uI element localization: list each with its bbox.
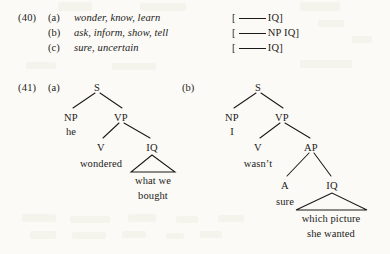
tree-b-node-v: V [254, 142, 262, 153]
scan-artifact [58, 2, 92, 11]
scan-artifact [112, 63, 156, 70]
tree-b-leaf-np-word: I [230, 126, 234, 137]
scan-artifact [70, 216, 110, 223]
blank-slot [239, 18, 266, 19]
scan-artifact [300, 60, 352, 68]
tree-a-node-np: NP [64, 112, 78, 123]
tree-b-node-a: A [281, 180, 289, 191]
scan-artifact [200, 231, 222, 238]
tree-a-leaf-iq-line1: what we [135, 175, 171, 186]
scan-artifact [128, 214, 156, 222]
bracket-open: [ [232, 42, 236, 53]
scan-artifact [122, 231, 146, 238]
tree-b-node-s: S [255, 82, 261, 93]
tree-a-branch-vp-iq [124, 123, 150, 138]
scan-artifact [300, 2, 340, 11]
tree-b-branch-vp-ap [285, 123, 310, 138]
tree-a-branch-s-np [73, 93, 95, 108]
scan-artifact [26, 62, 56, 69]
example-40-row-b-letter: (b) [48, 27, 60, 38]
tree-a-node-iq: IQ [146, 142, 157, 153]
tree-b-branch-s-vp [261, 93, 283, 108]
bracket-open: [ [232, 27, 236, 38]
tree-a-leaf-iq-line2: bought [138, 190, 168, 201]
bracket-open: [ [232, 12, 236, 23]
tree-b-letter: (b) [182, 82, 194, 93]
example-40-row-c-verbs: sure, uncertain [74, 42, 139, 53]
bracket-tail: NP IQ] [268, 27, 299, 38]
tree-b-node-ap: AP [304, 142, 318, 153]
tree-b-iq-triangle [296, 193, 367, 210]
example-40-row-c-letter: (c) [48, 42, 60, 53]
blank-slot [239, 48, 266, 49]
scan-artifact [318, 20, 344, 27]
scan-artifact [30, 231, 56, 239]
example-40-row-a-letter: (a) [48, 12, 60, 23]
scan-artifact [176, 216, 198, 223]
tree-b-branch-vp-v [260, 123, 280, 138]
example-40-row-b-verbs: ask, inform, show, tell [74, 27, 168, 38]
example-41-number: (41) [18, 82, 36, 93]
tree-b-node-iq: IQ [326, 180, 337, 191]
blank-slot [239, 33, 266, 34]
document-page: (40) (a) wonder, know, learn [IQ] (b) as… [0, 0, 390, 254]
tree-b-branch-ap-a [287, 153, 309, 176]
tree-b-leaf-iq-line1: which picture [302, 213, 361, 224]
tree-a-leaf-v-word: wondered [80, 158, 122, 169]
scan-artifact [166, 233, 184, 239]
tree-a-node-v: V [97, 142, 105, 153]
tree-a-branch-s-vp [100, 93, 122, 108]
example-40-row-a-verbs: wonder, know, learn [74, 12, 160, 23]
bracket-tail: IQ] [268, 42, 283, 53]
scan-artifact [140, 3, 186, 11]
tree-a-letter: (a) [48, 82, 60, 93]
scan-artifact [218, 215, 244, 222]
tree-a-node-vp: VP [114, 112, 128, 123]
example-40-row-c-bracket: [IQ] [232, 42, 283, 53]
scan-artifact [22, 214, 56, 222]
tree-b-node-np: NP [225, 112, 239, 123]
tree-a-leaf-np-word: he [66, 126, 76, 137]
example-40-row-b-bracket: [NP IQ] [232, 27, 299, 38]
example-40-row-a-bracket: [IQ] [232, 12, 283, 23]
example-40-number: (40) [18, 12, 36, 23]
bracket-tail: IQ] [268, 12, 283, 23]
scan-artifact [72, 232, 106, 239]
tree-a-node-s: S [94, 82, 100, 93]
tree-b-branch-ap-iq [314, 153, 331, 176]
scan-artifact [352, 36, 372, 43]
tree-b-node-vp: VP [275, 112, 289, 123]
tree-b-leaf-iq-line2: she wanted [307, 228, 355, 239]
tree-b-leaf-a-word: sure [276, 196, 294, 207]
tree-b-leaf-v-word: wasn’t [244, 158, 272, 169]
tree-a-branch-vp-v [103, 123, 119, 138]
tree-a-iq-triangle [131, 155, 175, 172]
tree-b-branch-s-np [234, 93, 256, 108]
